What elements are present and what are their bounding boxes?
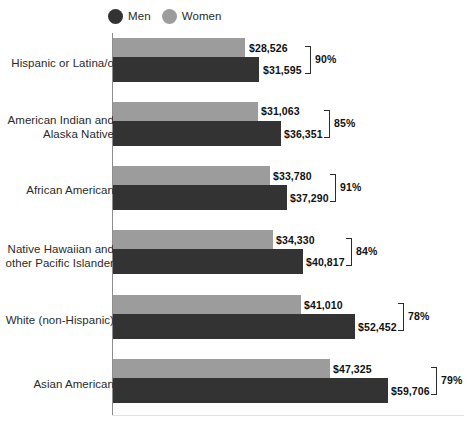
- ratio-percent-label: 79%: [441, 374, 462, 386]
- ratio-bracket: [398, 303, 404, 331]
- bar-value-men: $59,706: [391, 385, 430, 397]
- ratio-bracket: [305, 46, 311, 74]
- ratio-percent-label: 78%: [408, 310, 429, 322]
- bar-women: [113, 166, 270, 185]
- ratio-bracket: [346, 238, 352, 266]
- ratio-bracket: [330, 174, 336, 202]
- category-label: American Indian and Alaska Native: [0, 114, 114, 141]
- bar-value-women: $31,063: [261, 105, 300, 117]
- bar-women: [113, 230, 273, 249]
- bar-women: [113, 38, 245, 57]
- legend-entry-women: Women: [162, 9, 222, 24]
- bar-value-women: $28,526: [249, 42, 288, 54]
- ratio-percent-label: 90%: [315, 53, 336, 65]
- bar-value-women: $34,330: [276, 234, 315, 246]
- ratio-percent-label: 91%: [340, 181, 361, 193]
- x-axis-baseline: [112, 415, 464, 416]
- circle-swatch-icon: [108, 9, 123, 24]
- bar-men: [113, 314, 355, 339]
- bar-value-men: $36,351: [284, 128, 323, 140]
- bar-women: [113, 295, 301, 314]
- bar-value-men: $52,452: [358, 321, 397, 333]
- bar-value-men: $37,290: [290, 192, 329, 204]
- category-label: Native Hawaiian and other Pacific Island…: [0, 243, 114, 270]
- legend-entry-men: Men: [108, 9, 151, 24]
- bar-men: [113, 378, 388, 403]
- legend-label-women: Women: [182, 10, 222, 22]
- bar-men: [113, 249, 303, 274]
- category-label: Hispanic or Latina/o: [0, 57, 114, 71]
- chart-legend: Men Women: [108, 5, 222, 27]
- legend-label-men: Men: [128, 10, 151, 22]
- bar-men: [113, 57, 259, 82]
- bar-value-men: $40,817: [306, 256, 345, 268]
- ratio-bracket: [431, 367, 437, 395]
- ratio-percent-label: 85%: [334, 117, 355, 129]
- ratio-percent-label: 84%: [356, 245, 377, 257]
- earnings-by-race-gender-bar-chart: Men Women Hispanic or Latina/o $28,526 $…: [0, 0, 474, 423]
- bar-value-women: $33,780: [273, 170, 312, 182]
- bar-value-women: $47,325: [333, 363, 372, 375]
- category-label: African American: [0, 184, 114, 198]
- bar-men: [113, 185, 287, 210]
- bar-value-women: $41,010: [304, 299, 343, 311]
- bar-value-men: $31,595: [263, 64, 302, 76]
- category-label: White (non-Hispanic): [0, 314, 114, 328]
- bar-women: [113, 359, 330, 378]
- category-label: Asian American: [0, 378, 114, 392]
- ratio-bracket: [324, 110, 330, 138]
- circle-swatch-icon: [162, 9, 177, 24]
- bar-men: [113, 121, 281, 146]
- bar-women: [113, 102, 258, 121]
